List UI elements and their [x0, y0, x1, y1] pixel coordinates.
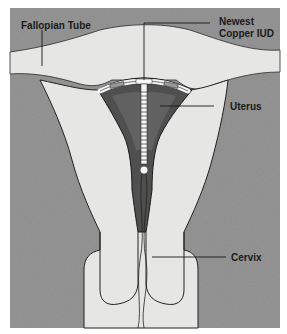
label-iud-line1: Newest: [219, 16, 254, 27]
label-fallopian-tube: Fallopian Tube: [21, 20, 91, 31]
label-cervix: Cervix: [231, 252, 262, 263]
label-uterus: Uterus: [230, 101, 262, 112]
label-iud-line2: Copper IUD: [219, 28, 274, 39]
iud-diagram: [0, 0, 287, 334]
